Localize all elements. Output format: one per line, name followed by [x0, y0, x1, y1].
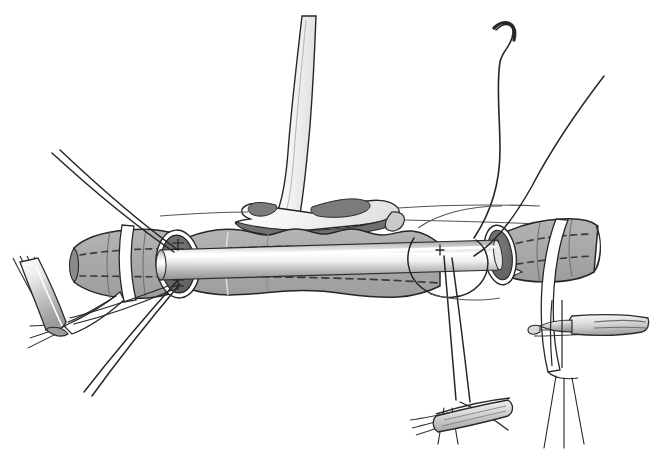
forceps-right-blade [569, 315, 649, 336]
forceps-right-tip [528, 325, 540, 334]
endotracheal-tube-proximal-opening [156, 250, 166, 280]
illustration-canvas: Tracheal resection with cross-field endo… [0, 0, 652, 456]
surgical-illustration-svg [0, 0, 652, 456]
